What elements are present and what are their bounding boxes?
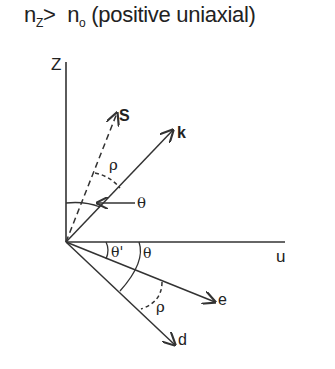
theta-prime-arc xyxy=(106,242,108,259)
uniaxial-diagram: Z u S k e d ρ θ θ' θ ρ xyxy=(0,0,335,369)
u-axis-label: u xyxy=(276,247,285,266)
z-axis-label: Z xyxy=(51,55,61,74)
theta-lower-label: θ xyxy=(143,245,151,261)
theta-upper-arc xyxy=(66,203,100,208)
s-vector xyxy=(66,113,117,242)
rho-upper-arc xyxy=(95,173,120,188)
theta-prime-label: θ' xyxy=(111,244,123,260)
theta-upper-label: θ xyxy=(137,194,146,212)
k-vector-label: k xyxy=(177,124,186,141)
d-vector-label: d xyxy=(178,331,187,348)
rho-lower-label: ρ xyxy=(156,298,165,316)
s-vector-label: S xyxy=(119,107,130,124)
k-vector xyxy=(66,130,173,242)
e-vector-label: e xyxy=(218,291,227,308)
rho-upper-label: ρ xyxy=(109,156,118,174)
